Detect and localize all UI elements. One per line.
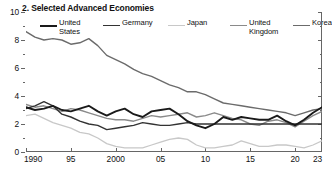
y-tick-mark xyxy=(21,12,25,13)
series-canvas xyxy=(26,12,322,152)
y-minor-tick-mark xyxy=(23,138,25,139)
chart-panel: 2. Selected Advanced Economies United St… xyxy=(0,0,332,183)
y-tick-mark xyxy=(21,68,25,69)
x-tick-label: 20 xyxy=(291,155,300,164)
x-tick-label: 1990 xyxy=(24,155,42,164)
y-minor-tick-mark xyxy=(23,54,25,55)
plot-area xyxy=(26,12,322,152)
y-tick-mark xyxy=(21,96,25,97)
y-tick-label: 6 xyxy=(14,64,19,72)
x-tick-label: 05 xyxy=(156,155,165,164)
x-axis-labels: 19909520000510152023 xyxy=(0,155,332,169)
x-tick-label: 10 xyxy=(201,155,210,164)
y-minor-tick-mark xyxy=(23,26,25,27)
y-tick-mark xyxy=(21,40,25,41)
series-line-korea xyxy=(26,32,322,116)
x-tick-label: 23 xyxy=(313,155,322,164)
x-tick-label: 15 xyxy=(246,155,255,164)
y-tick-mark xyxy=(21,152,25,153)
y-minor-tick-mark xyxy=(23,110,25,111)
y-axis-labels: 0246810 xyxy=(0,12,26,152)
y-tick-mark xyxy=(21,124,25,125)
y-tick-label: 4 xyxy=(14,92,19,100)
y-tick-label: 2 xyxy=(14,120,19,128)
x-tick-label: 95 xyxy=(66,155,75,164)
y-tick-label: 8 xyxy=(14,36,19,44)
y-tick-label: 10 xyxy=(10,8,19,16)
y-minor-tick-mark xyxy=(23,82,25,83)
x-tick-label: 2000 xyxy=(107,155,125,164)
